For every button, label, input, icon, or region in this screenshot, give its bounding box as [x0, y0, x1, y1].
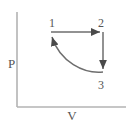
pv-diagram-figure: P V 1 2 3 — [0, 0, 135, 122]
state-label-2: 2 — [98, 16, 104, 30]
process-3-to-1-curve — [52, 37, 103, 72]
pv-diagram-canvas: P V 1 2 3 — [0, 0, 135, 122]
state-label-1: 1 — [49, 16, 55, 30]
y-axis-label: P — [8, 56, 15, 71]
x-axis-label: V — [67, 108, 77, 122]
state-label-3: 3 — [98, 78, 104, 92]
